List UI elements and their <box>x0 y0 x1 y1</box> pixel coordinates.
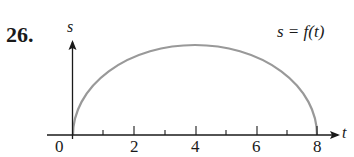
x-ticks <box>103 126 317 135</box>
curve-f <box>73 45 317 135</box>
chart-plot <box>0 0 354 157</box>
